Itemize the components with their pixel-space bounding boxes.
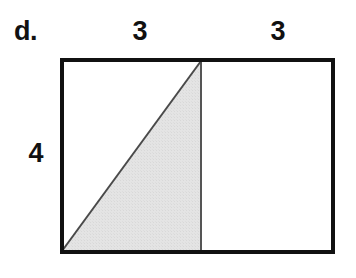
top-right-width-label: 3 <box>256 18 300 45</box>
figure-canvas <box>0 0 356 278</box>
top-left-width-label: 3 <box>118 18 162 45</box>
left-height-label: 4 <box>20 140 52 167</box>
geometry-figure: d. 3 3 4 <box>0 0 356 278</box>
item-marker-label: d. <box>14 18 37 45</box>
